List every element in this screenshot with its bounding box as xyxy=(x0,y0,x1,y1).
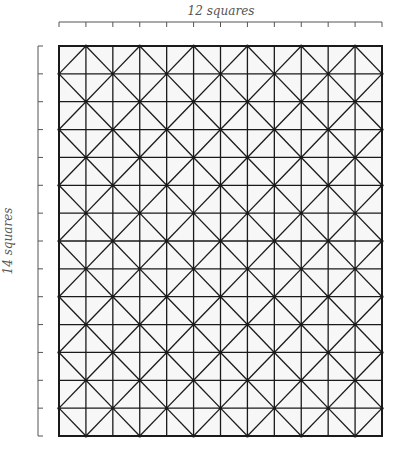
pattern-diagram: 12 squares 14 squares xyxy=(0,0,396,450)
top-dimension-label: 12 squares xyxy=(188,4,255,18)
side-ruler xyxy=(38,46,43,436)
top-ruler xyxy=(59,22,382,27)
side-dimension-label: 14 squares xyxy=(1,208,15,275)
